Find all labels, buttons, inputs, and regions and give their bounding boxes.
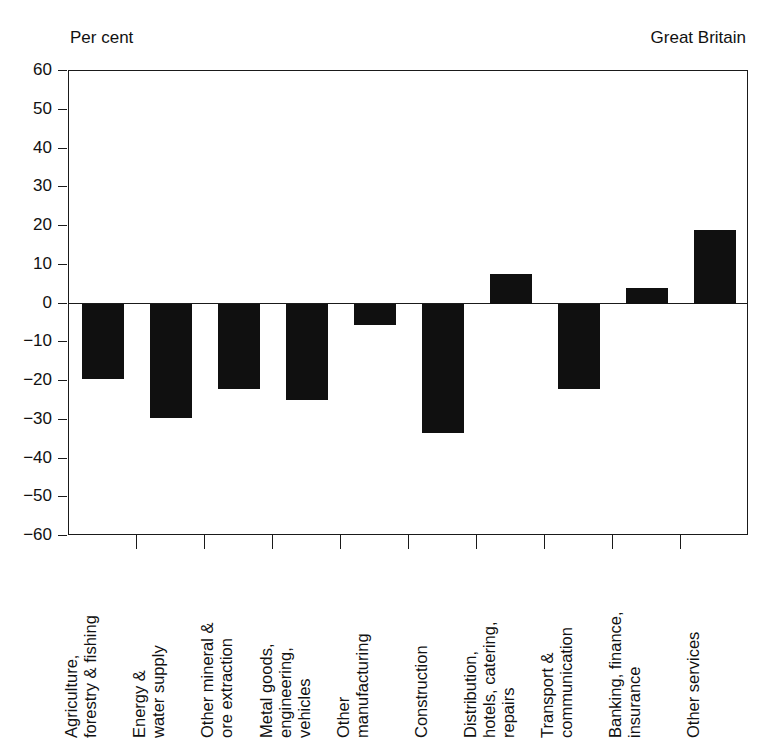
x-axis-category-label: Construction [412,552,429,738]
y-axis-tick [58,380,67,381]
bar [150,304,192,418]
x-axis-category-label: manufacturing [353,552,370,738]
x-axis-category-label: ore extraction [217,552,234,738]
x-axis-category-label: engineering, [276,552,293,738]
bar [354,304,396,325]
x-axis-tick [204,535,205,549]
x-axis-category-label: forestry & fishing [81,552,98,738]
x-axis-category-label: Banking, finance, [606,552,623,738]
bar [490,274,532,303]
y-axis-tick-label: 30 [0,177,52,194]
x-axis-category-label: repairs [499,552,516,738]
x-axis-tick [476,535,477,549]
y-axis-tick [58,225,67,226]
y-axis-tick [58,496,67,497]
x-axis-category-label: Other mineral & [198,552,215,738]
x-axis-category-label: insurance [625,552,642,738]
x-axis-category-label: Agriculture, [62,552,79,738]
bar [694,230,736,304]
bar [218,304,260,389]
x-axis-category-label: vehicles [295,552,312,738]
y-axis-tick-label: 50 [0,100,52,117]
y-axis-tick [58,109,67,110]
bar [626,288,668,304]
y-axis-tick [58,341,67,342]
x-axis-category-label: Energy & [130,552,147,738]
y-axis-tick-label: −50 [0,487,52,504]
x-axis-tick [272,535,273,549]
x-axis-category-label: Other [334,552,351,738]
x-axis-category-label: Other services [684,552,701,738]
y-axis-unit-label: Per cent [70,28,133,48]
x-axis-tick [544,535,545,549]
y-axis-tick [58,70,67,71]
y-axis-tick-label: 60 [0,61,52,78]
x-axis-tick [680,535,681,549]
y-axis-tick-label: 0 [0,294,52,311]
bar [82,304,124,380]
y-axis-tick [58,419,67,420]
y-axis-tick [58,148,67,149]
y-axis-tick-label: 40 [0,139,52,156]
x-axis-category-label: Distribution, [461,552,478,738]
y-axis-tick-label: −60 [0,526,52,543]
x-axis-tick [612,535,613,549]
y-axis-tick [58,264,67,265]
x-axis-category-label: communication [557,552,574,738]
bar [422,304,464,434]
x-axis-category-label: water supply [149,552,166,738]
y-axis-tick-label: 10 [0,255,52,272]
chart-header: Per cent Great Britain [0,28,758,54]
y-axis-tick [58,535,67,536]
y-axis-tick-label: −40 [0,449,52,466]
y-axis-tick-label: −20 [0,371,52,388]
region-label: Great Britain [651,28,746,48]
y-axis-tick-label: 20 [0,216,52,233]
x-axis-category-label: hotels, catering, [480,552,497,738]
y-axis-tick-label: −10 [0,332,52,349]
x-axis-category-label: Transport & [538,552,555,738]
y-axis-tick [58,186,67,187]
plot-area [68,70,748,535]
x-axis-category-label: Metal goods, [257,552,274,738]
x-axis-tick [408,535,409,549]
bar [286,304,328,401]
y-axis-tick-label: −30 [0,410,52,427]
x-axis-tick [340,535,341,549]
y-axis-tick [58,458,67,459]
x-axis-tick [136,535,137,549]
x-axis-category-labels: Agriculture,forestry & fishingEnergy &wa… [0,552,758,738]
y-axis-tick [58,303,67,304]
bar [558,304,600,389]
